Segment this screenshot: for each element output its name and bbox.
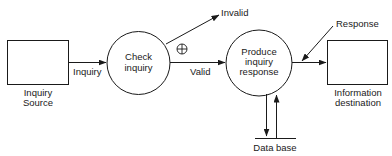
data-base-store: Data base <box>253 94 296 153</box>
response-label: Response <box>336 18 379 29</box>
valid-flow-label: Valid <box>190 66 210 77</box>
produce-label-line3: response <box>239 66 278 77</box>
check-inquiry-label-line1: Check <box>125 51 152 62</box>
inquiry-source-label-line2: Source <box>23 97 53 108</box>
produce-inquiry-response-process: Produce inquiry response <box>226 30 292 96</box>
response-pointer: Response <box>302 18 379 61</box>
inquiry-flow-label: Inquiry <box>73 66 102 77</box>
data-flow-diagram: Inquiry Source Inquiry Check inquiry Inv… <box>0 0 392 156</box>
check-inquiry-label-line2: inquiry <box>125 62 153 73</box>
invalid-flow: Invalid <box>166 7 248 44</box>
inquiry-flow: Inquiry <box>69 63 107 78</box>
information-destination-entity: Information destination <box>328 41 388 109</box>
valid-flow: Valid <box>170 63 225 78</box>
data-base-label: Data base <box>253 142 296 153</box>
response-arrow-icon <box>302 26 333 61</box>
invalid-flow-label: Invalid <box>221 7 248 18</box>
check-inquiry-process: Check inquiry <box>107 32 170 95</box>
information-destination-label-line2: destination <box>335 97 381 108</box>
inquiry-source-entity: Inquiry Source <box>8 41 69 109</box>
invalid-arrow-icon <box>166 15 219 44</box>
exclusive-or-icon <box>177 44 187 54</box>
